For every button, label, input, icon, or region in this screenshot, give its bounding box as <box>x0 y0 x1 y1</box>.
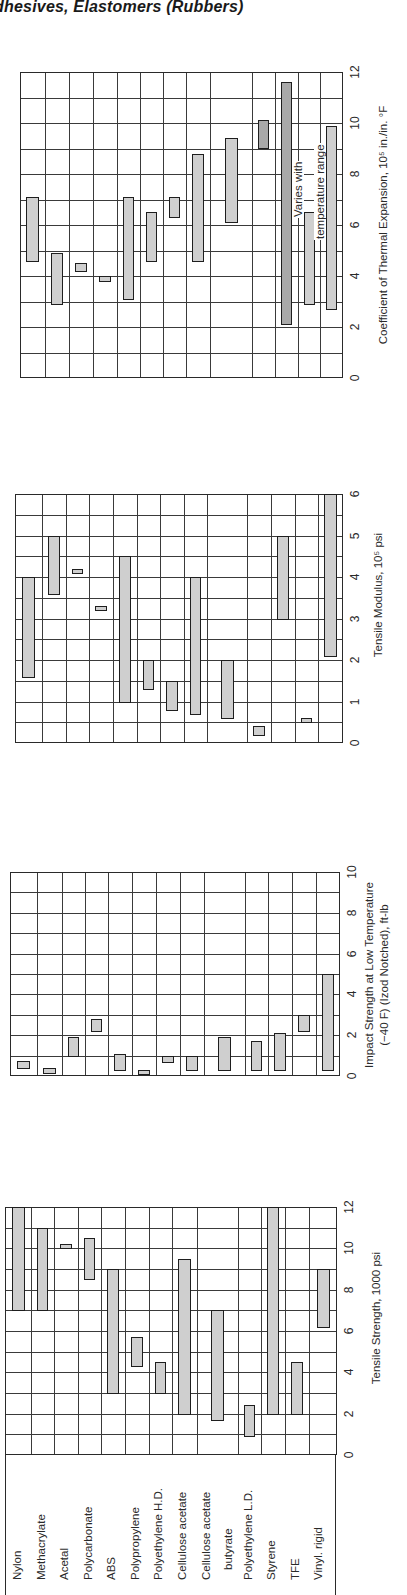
range-bar <box>218 1037 231 1071</box>
range-bar <box>225 138 238 223</box>
range-bar <box>253 726 265 735</box>
axis-tick-label: 8 <box>349 164 361 184</box>
grid-value-line <box>6 1352 336 1353</box>
grid-value-line <box>16 639 342 640</box>
range-bar <box>22 577 35 678</box>
range-bar <box>322 974 334 1071</box>
range-bar <box>26 197 39 262</box>
grid-value-line <box>21 225 342 226</box>
range-bar <box>211 1310 224 1421</box>
grid-value-line <box>6 1228 336 1229</box>
grid-value-line <box>11 933 339 934</box>
range-bar <box>99 276 111 282</box>
axis-tick-label: 2 <box>349 317 361 337</box>
range-bar <box>192 154 204 262</box>
grid-value-line <box>21 123 342 124</box>
range-bar <box>190 577 202 715</box>
label-tfe: TFE <box>289 1558 302 1580</box>
range-bar <box>178 1259 191 1415</box>
axis-tick-label: 0 <box>343 1445 355 1465</box>
grid-value-line <box>21 353 342 354</box>
grid-value-line <box>11 1015 339 1016</box>
range-bar <box>274 1033 286 1071</box>
grid-value-line <box>21 327 342 328</box>
axis-tick-label: 12 <box>343 1197 355 1217</box>
axis-tick-label: 0 <box>349 733 361 753</box>
range-bar <box>12 1207 25 1311</box>
grid-value-line <box>11 994 339 995</box>
grid-value-line <box>16 702 342 703</box>
range-bar <box>114 1054 126 1071</box>
range-bar <box>301 718 313 723</box>
impact-strength-chart <box>10 872 340 1076</box>
range-bar <box>244 1405 256 1437</box>
range-bar <box>281 82 293 325</box>
axis-tick-label: 0 <box>349 368 361 388</box>
label-styrene: Styrene <box>265 1540 278 1580</box>
axis-tick-label: 4 <box>349 266 361 286</box>
range-bar <box>60 1244 72 1249</box>
axis-tick-label: 2 <box>343 1404 355 1424</box>
axis-tick-label: 2 <box>346 1025 358 1045</box>
thermal-axis-title: Coefficient of Thermal Expansion, 10⁵ in… <box>377 70 390 380</box>
axis-tick-label: 8 <box>346 903 358 923</box>
grid-value-line <box>11 1056 339 1057</box>
impact-axis-title-line1: Impact Strength at Low Temperature <box>363 860 376 1090</box>
grid-value-line <box>16 681 342 682</box>
range-bar <box>291 1362 303 1415</box>
label-polypropylene: Polypropylene <box>129 1507 142 1580</box>
range-bar <box>131 1337 143 1367</box>
axis-tick-label: 5 <box>349 526 361 546</box>
grid-value-line <box>6 1310 336 1311</box>
range-bar <box>251 1041 263 1071</box>
grid-value-line <box>6 1290 336 1291</box>
grid-value-line <box>16 598 342 599</box>
grid-value-line <box>6 1393 336 1394</box>
label-cellulose-acetate-butyrate-1: Cellulose acetate <box>200 1492 213 1580</box>
range-bar <box>166 681 178 711</box>
range-bar <box>43 1068 56 1074</box>
range-bar <box>72 569 84 574</box>
annotation-temperature-range: temperature range <box>314 143 326 240</box>
range-bar <box>267 1207 279 1415</box>
thermal-expansion-chart <box>20 72 343 378</box>
label-polycarbonate: Polycarbonate <box>82 1506 95 1580</box>
axis-tick-label: 1 <box>349 692 361 712</box>
grid-value-line <box>16 660 342 661</box>
range-bar <box>37 1228 49 1312</box>
range-bar <box>68 1037 80 1056</box>
axis-tick-label: 10 <box>343 1238 355 1258</box>
range-bar <box>143 660 155 690</box>
grid-value-line <box>11 1035 339 1036</box>
range-bar <box>95 606 107 611</box>
range-bar <box>169 197 181 218</box>
material-labels-box <box>5 1455 336 1595</box>
range-bar <box>162 1056 174 1063</box>
tensile-strength-chart <box>5 1207 337 1455</box>
label-vinyl-rigid: Vinyl. rigid <box>312 1527 325 1580</box>
impact-axis-title-line2: (−40 F) (Izod Notched), ft-lb <box>378 860 391 1090</box>
range-bar <box>75 263 87 272</box>
grid-value-line <box>21 98 342 99</box>
grid-value-line <box>11 892 339 893</box>
axis-tick-label: 10 <box>349 113 361 133</box>
axis-tick-label: 6 <box>346 944 358 964</box>
grid-value-line <box>6 1414 336 1415</box>
range-bar <box>146 212 158 261</box>
axis-tick-label: 8 <box>343 1280 355 1300</box>
modulus-axis-title: Tensile Modulus, 10⁵ psi <box>372 495 385 695</box>
label-cellulose-acetate-butyrate-2: butyrate <box>222 1528 235 1570</box>
grid-value-line <box>6 1248 336 1249</box>
grid-value-line <box>16 619 342 620</box>
range-bar <box>221 660 234 719</box>
grid-value-line <box>6 1331 336 1332</box>
range-bar <box>84 1238 96 1280</box>
grid-value-line <box>6 1434 336 1435</box>
axis-tick-label: 3 <box>349 609 361 629</box>
range-bar <box>277 536 289 620</box>
range-bar <box>298 1015 310 1032</box>
axis-tick-label: 10 <box>346 862 358 882</box>
range-bar <box>17 1061 30 1069</box>
range-bar <box>324 494 337 657</box>
axis-tick-label: 6 <box>343 1321 355 1341</box>
